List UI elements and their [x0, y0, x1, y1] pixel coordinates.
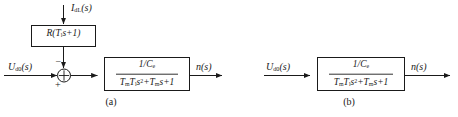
block-diagram-figure: IdL(s) R(Tls+1) Ud0(s) − + 1/Ce TmTls2+T…	[0, 0, 458, 117]
disturbance-input-label: IdL(s)	[71, 3, 92, 14]
speed-output-label: n(s)	[411, 62, 427, 72]
speed-output-label: n(s)	[196, 62, 212, 72]
panel-b-caption: (b)	[240, 96, 458, 107]
panel-a-caption: (a)	[0, 96, 222, 107]
plant-transfer-function-expression: 1/Ce TmTls2+Tms+1	[318, 59, 404, 88]
plant-numerator-text: 1/Ce	[318, 59, 404, 70]
load-resistance-expression-text: R(Tls+1)	[31, 28, 96, 39]
control-input-label: Ud0(s)	[8, 62, 32, 73]
summing-junction-minus-sign: −	[56, 57, 62, 67]
control-input-label: Ud0(s)	[266, 62, 290, 73]
plant-numerator-text: 1/Ce	[105, 59, 189, 70]
plant-denominator-text: TmTls2+Tms+1	[105, 76, 189, 87]
load-resistance-block-expression: R(Tls+1)	[31, 28, 96, 39]
plant-denominator-text: TmTls2+Tms+1	[318, 76, 404, 87]
summing-junction-plus-sign: +	[55, 80, 61, 90]
plant-transfer-function-expression: 1/Ce TmTls2+Tms+1	[105, 59, 189, 88]
